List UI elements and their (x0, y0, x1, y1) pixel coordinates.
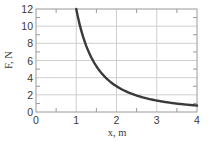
y-tick-label: 8 (27, 37, 33, 49)
x-tick-label: 0 (33, 114, 39, 126)
y-tick-label: 10 (21, 20, 33, 32)
y-tick-labels: 024681012 (21, 3, 33, 118)
y-tick-label: 2 (27, 89, 33, 101)
y-tick-label: 12 (21, 3, 33, 15)
x-tick-label: 3 (154, 114, 160, 126)
y-tick-label: 6 (27, 55, 33, 67)
data-curve (76, 9, 197, 106)
y-tick-label: 4 (27, 72, 33, 84)
x-tick-label: 2 (114, 114, 120, 126)
force-vs-distance-chart: 024681012 01234 F, N x, m (0, 0, 208, 142)
y-axis-label: F, N (3, 51, 14, 69)
x-tick-labels: 01234 (33, 114, 200, 126)
x-tick-label: 4 (194, 114, 200, 126)
grid-lines (36, 9, 197, 112)
x-axis-label: x, m (108, 127, 127, 138)
x-tick-label: 1 (73, 114, 79, 126)
